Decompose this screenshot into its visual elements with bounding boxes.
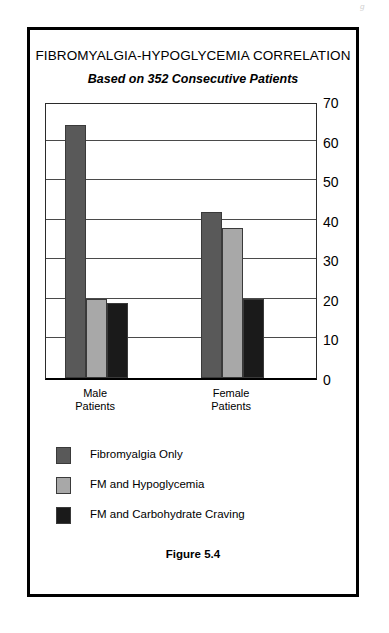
- y-tick-label: 40: [323, 214, 353, 230]
- x-category-line1: Female: [211, 387, 251, 400]
- legend-item: Fibromyalgia Only: [56, 445, 326, 475]
- bar: [243, 299, 264, 378]
- figure-caption: Figure 5.4: [30, 548, 356, 560]
- legend-swatch: [56, 477, 71, 494]
- y-tick-label: 30: [323, 253, 353, 269]
- chart-title: FIBROMYALGIA-HYPOGLYCEMIA CORRELATION: [30, 48, 356, 63]
- bar: [65, 125, 86, 378]
- bar: [222, 228, 243, 378]
- bar: [201, 212, 222, 378]
- plot-area: [45, 103, 317, 380]
- x-category-line2: Patients: [211, 400, 251, 413]
- y-axis: 706050403020100: [323, 103, 363, 380]
- legend-label: Fibromyalgia Only: [90, 448, 183, 460]
- y-tick-label: 50: [323, 174, 353, 190]
- legend-swatch: [56, 447, 71, 464]
- chart-legend: Fibromyalgia OnlyFM and HypoglycemiaFM a…: [56, 445, 326, 535]
- legend-item: FM and Hypoglycemia: [56, 475, 326, 505]
- x-category-label: FemalePatients: [211, 387, 251, 412]
- y-tick-label: 20: [323, 293, 353, 309]
- figure-frame: FIBROMYALGIA-HYPOGLYCEMIA CORRELATION Ba…: [27, 27, 359, 597]
- y-tick-label: 10: [323, 332, 353, 348]
- legend-label: FM and Carbohydrate Craving: [90, 508, 245, 520]
- plot-wrapper: 706050403020100 MalePatientsFemalePatien…: [45, 75, 347, 415]
- x-category-line2: Patients: [75, 400, 115, 413]
- bar: [86, 299, 107, 378]
- legend-label: FM and Hypoglycemia: [90, 478, 204, 490]
- bar: [107, 303, 128, 378]
- scan-artifact: g: [360, 2, 365, 11]
- legend-item: FM and Carbohydrate Craving: [56, 505, 326, 535]
- y-tick-label: 70: [323, 95, 353, 111]
- x-axis: MalePatientsFemalePatients: [45, 383, 317, 417]
- x-category-line1: Male: [75, 387, 115, 400]
- y-tick-label: 0: [323, 372, 353, 388]
- bars-layer: [46, 104, 316, 378]
- x-category-label: MalePatients: [75, 387, 115, 412]
- y-tick-label: 60: [323, 135, 353, 151]
- legend-swatch: [56, 507, 71, 524]
